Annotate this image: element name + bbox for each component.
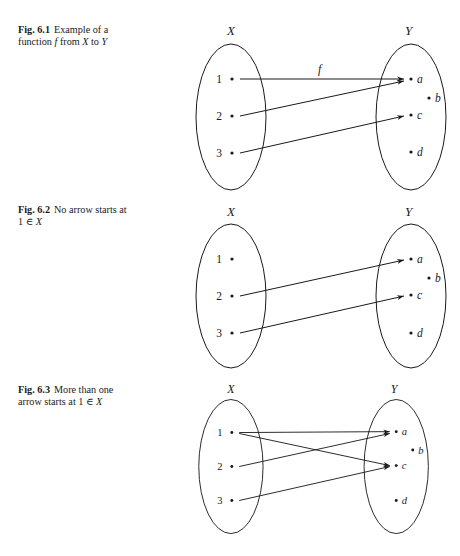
element-c-label: c: [417, 289, 422, 301]
set-y-label: Y: [405, 204, 414, 219]
element-b-label: b: [418, 445, 423, 456]
element-a-dot: [409, 257, 412, 260]
element-a-label: a: [417, 253, 423, 265]
element-d-dot: [395, 499, 398, 502]
element-a-dot: [395, 430, 398, 433]
element-b-dot: [427, 276, 430, 279]
element-a-label: a: [402, 426, 407, 437]
element-a-dot: [409, 77, 412, 80]
element-3-dot: [230, 331, 233, 334]
element-2-dot: [230, 294, 233, 297]
element-3-label: 3: [216, 327, 222, 339]
element-d-label: d: [402, 495, 408, 506]
element-b-label: b: [435, 272, 441, 284]
figure-6-3-diagram: X Y 1 2 3 a b c d: [0, 360, 460, 540]
element-b-dot: [427, 96, 430, 99]
element-d-label: d: [417, 327, 423, 339]
arrow-1-to-a: [239, 432, 390, 433]
element-3-dot: [230, 499, 233, 502]
figure-6-1-diagram: X Y 1 2 3 a b c d f: [0, 0, 460, 180]
element-d-label: d: [417, 146, 423, 158]
element-b-dot: [411, 449, 414, 452]
set-x-label: X: [226, 23, 236, 38]
element-2-dot: [230, 465, 233, 468]
element-1-dot: [230, 77, 233, 80]
figure-6-2-diagram: X Y 1 2 3 a b c d: [0, 180, 460, 360]
element-2-label: 2: [216, 110, 222, 122]
element-c-dot: [409, 113, 412, 116]
element-3-dot: [230, 151, 233, 154]
function-f-label: f: [318, 62, 323, 76]
element-3-label: 3: [216, 147, 222, 159]
set-y-ellipse: [376, 44, 446, 190]
element-c-label: c: [417, 109, 422, 121]
element-2-label: 2: [217, 461, 222, 472]
element-b-label: b: [435, 92, 441, 104]
element-c-dot: [409, 293, 412, 296]
element-c-label: c: [402, 460, 407, 471]
element-1-label: 1: [216, 73, 222, 85]
set-x-label: X: [226, 382, 235, 396]
element-c-dot: [395, 464, 398, 467]
element-3-label: 3: [217, 495, 222, 506]
set-y-label: Y: [391, 382, 399, 396]
element-1-label: 1: [216, 253, 222, 265]
element-2-dot: [230, 114, 233, 117]
element-a-label: a: [417, 73, 423, 85]
set-y-label: Y: [405, 23, 414, 38]
element-d-dot: [409, 150, 412, 153]
element-2-label: 2: [216, 290, 222, 302]
element-1-label: 1: [217, 427, 222, 438]
element-d-dot: [409, 331, 412, 334]
element-1-dot: [230, 257, 233, 260]
element-1-dot: [230, 431, 233, 434]
set-x-label: X: [226, 204, 236, 219]
